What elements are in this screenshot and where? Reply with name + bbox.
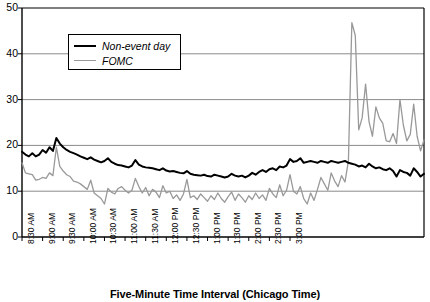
legend-swatch-icon [74, 45, 96, 47]
chart-container: 50403020100 8:30 AM9:00 AM9:30 AM10:00 A… [0, 0, 430, 302]
x-axis-tick-label: 1:30 PM [232, 212, 242, 244]
legend-label: FOMC [102, 55, 133, 67]
legend-item-fomc: FOMC [74, 53, 175, 68]
x-axis-tick-label: 12:00 PM [170, 208, 180, 244]
x-axis-tick-label: 3:00 PM [294, 212, 304, 244]
x-axis-tick-label: 9:30 AM [67, 213, 77, 244]
line-chart-plot [0, 0, 430, 302]
x-axis-tick-label: 10:30 AM [108, 208, 118, 244]
x-axis-tick-label: 2:30 PM [273, 212, 283, 244]
y-axis-tick-label: 50 [0, 1, 18, 13]
chart-legend: Non-event day FOMC [68, 34, 181, 70]
legend-item-non-event-day: Non-event day [74, 38, 175, 53]
x-axis-tick-label: 2:00 PM [253, 212, 263, 244]
legend-swatch-icon [74, 60, 96, 61]
x-axis-tick-label: 10:00 AM [88, 208, 98, 244]
x-axis-tick-label: 12:30 PM [191, 208, 201, 244]
y-axis-tick-label: 30 [0, 93, 18, 105]
x-axis-tick-label: 11:00 AM [129, 209, 139, 244]
x-axis-tick-label: 11:30 AM [150, 209, 160, 244]
legend-label: Non-event day [102, 40, 170, 52]
y-axis-tick-label: 40 [0, 47, 18, 59]
y-axis-tick-label: 20 [0, 138, 18, 150]
x-axis-tick-label: 1:00 PM [212, 212, 222, 244]
x-axis-tick-label: 9:00 AM [47, 213, 57, 244]
x-axis-title: Five-Minute Time Interval (Chicago Time) [0, 288, 430, 300]
series-line-non-event-day [22, 138, 424, 177]
x-axis-tick-label: 8:30 AM [26, 213, 36, 244]
y-axis-tick-label: 0 [0, 230, 18, 242]
y-axis-tick-label: 10 [0, 184, 18, 196]
